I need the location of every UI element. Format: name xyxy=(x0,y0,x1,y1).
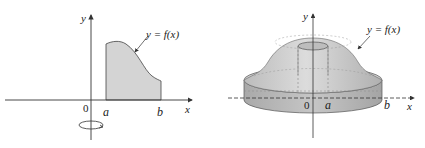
x-axis-label: x xyxy=(184,103,190,115)
right-figure: y x 0 a b y = f(x) xyxy=(228,10,414,138)
diagram-canvas: y x 0 a b y = f(x) y x 0 a b y = f(x) xyxy=(0,0,425,148)
y-axis-label: y xyxy=(80,12,86,24)
left-figure: y x 0 a b y = f(x) xyxy=(5,12,192,140)
curve-label: y = f(x) xyxy=(366,23,400,36)
origin-label: 0 xyxy=(83,102,89,114)
b-label: b xyxy=(384,98,390,112)
curve-label: y = f(x) xyxy=(145,28,179,41)
b-label: b xyxy=(157,105,163,119)
y-axis-label: y xyxy=(302,10,308,22)
x-axis-label: x xyxy=(406,100,412,112)
curve-pointer xyxy=(358,36,370,49)
a-label: a xyxy=(325,98,331,112)
shaded-region xyxy=(106,41,161,100)
origin-label: 0 xyxy=(304,99,310,111)
a-label: a xyxy=(103,105,109,119)
